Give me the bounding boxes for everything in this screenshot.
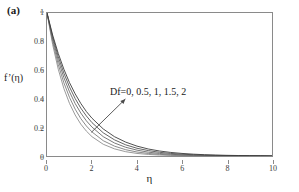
figure-panel-a: (a) f’(η) 00.20.40.60.81 0246810 η Df=0,… — [0, 0, 299, 192]
curve-df-1 — [47, 13, 272, 156]
y-tick-mark — [40, 128, 44, 129]
x-tick-mark — [91, 160, 92, 164]
y-axis-ticks: 00.20.40.60.81 — [18, 12, 44, 157]
series-annotation-label: Df=0, 0.5, 1, 1.5, 2 — [110, 86, 186, 97]
curve-df-0 — [47, 13, 272, 156]
x-tick-mark — [228, 160, 229, 164]
y-tick-mark — [40, 70, 44, 71]
x-axis-label: η — [0, 172, 299, 184]
curve-df-0-5 — [47, 13, 272, 156]
y-tick-mark — [40, 12, 44, 13]
plot-area — [46, 12, 273, 157]
curve-df-2 — [47, 13, 272, 156]
y-tick-mark — [40, 99, 44, 100]
curve-df-1-5 — [47, 13, 272, 156]
y-tick-mark — [40, 41, 44, 42]
x-tick-mark — [273, 160, 274, 164]
x-tick-mark — [137, 160, 138, 164]
x-tick-mark — [46, 160, 47, 164]
y-tick-mark — [40, 157, 44, 158]
x-tick-mark — [182, 160, 183, 164]
x-axis-ticks: 0246810 — [46, 160, 273, 172]
curve-series-group — [47, 13, 272, 156]
